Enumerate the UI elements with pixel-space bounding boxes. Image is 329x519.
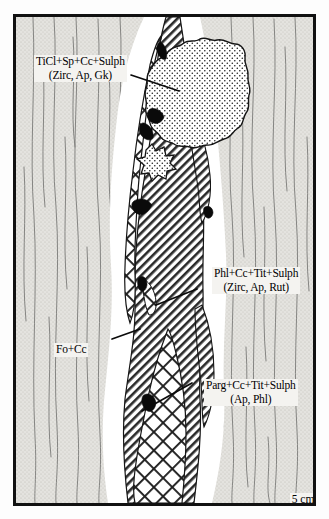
scale-bar-label: 5 cm bbox=[290, 493, 316, 506]
petrographic-figure: TiCl+Sp+Cc+Sulph (Zirc, Ap, Gk) Phl+Cc+T… bbox=[0, 0, 329, 519]
scale-bar: 5 cm bbox=[275, 489, 316, 506]
label-phl-line2: (Zirc, Ap, Rut) bbox=[214, 281, 298, 295]
label-parg-line2: (Ap, Phl) bbox=[206, 393, 296, 407]
label-fo: Fo+Cc bbox=[54, 343, 88, 357]
leader-lines bbox=[16, 17, 313, 503]
leader-ticl bbox=[131, 75, 179, 91]
label-ticl: TiCl+Sp+Cc+Sulph (Zirc, Ap, Gk) bbox=[34, 55, 127, 82]
label-parg-line1: Parg+Cc+Tit+Sulph bbox=[206, 379, 296, 393]
label-phl: Phl+Cc+Tit+Sulph (Zirc, Ap, Rut) bbox=[212, 267, 300, 294]
leader-fo bbox=[112, 329, 140, 339]
label-ticl-line1: TiCl+Sp+Cc+Sulph bbox=[36, 55, 125, 69]
leader-phl bbox=[156, 289, 197, 305]
label-parg: Parg+Cc+Tit+Sulph (Ap, Phl) bbox=[204, 379, 298, 406]
leader-parg bbox=[142, 383, 192, 411]
label-fo-line1: Fo+Cc bbox=[56, 343, 86, 357]
figure-frame: TiCl+Sp+Cc+Sulph (Zirc, Ap, Gk) Phl+Cc+T… bbox=[13, 14, 316, 506]
label-ticl-line2: (Zirc, Ap, Gk) bbox=[36, 69, 125, 83]
label-phl-line1: Phl+Cc+Tit+Sulph bbox=[214, 267, 298, 281]
